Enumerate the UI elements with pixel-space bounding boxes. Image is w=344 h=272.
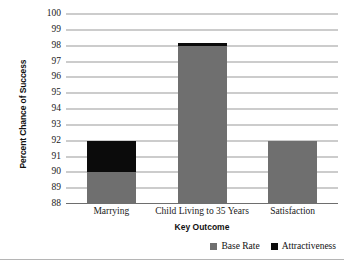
y-axis-tick-label: 100 <box>47 9 61 19</box>
y-axis-title: Percent Chance of Success <box>16 28 30 200</box>
y-axis-tick-label: 88 <box>52 199 62 209</box>
x-axis-tick-label: Marrying <box>93 206 129 216</box>
bar-slot <box>87 14 136 204</box>
bar-stack[interactable] <box>268 141 317 204</box>
bar-stack[interactable] <box>178 43 227 204</box>
y-axis-tick-label: 94 <box>52 104 62 114</box>
y-axis-tick-labels: 100999897969594939291908988 <box>38 14 64 204</box>
x-axis-tick-labels: MarryingChild Living to 35 YearsSatisfac… <box>66 206 338 222</box>
axis-baseline <box>66 203 338 204</box>
chart-legend: Base RateAttractiveness <box>210 241 336 251</box>
y-axis-tick-label: 97 <box>52 57 62 67</box>
legend-item[interactable]: Base Rate <box>210 241 259 251</box>
bottom-divider <box>0 259 344 260</box>
bar-slot <box>268 14 317 204</box>
x-axis-tick-label: Satisfaction <box>270 206 315 216</box>
bar-group <box>66 14 338 204</box>
y-axis-tick-label: 95 <box>52 88 62 98</box>
legend-item[interactable]: Attractiveness <box>271 241 336 251</box>
legend-label: Base Rate <box>221 241 259 251</box>
plot-area <box>66 14 338 204</box>
y-axis-tick-label: 92 <box>52 136 62 146</box>
legend-swatch-base-rate <box>210 243 217 250</box>
bar-segment-base-rate[interactable] <box>178 46 227 204</box>
x-axis-title: Key Outcome <box>66 222 338 232</box>
y-axis-tick-label: 90 <box>52 168 62 178</box>
legend-swatch-attractiveness <box>271 243 278 250</box>
y-axis-tick-label: 91 <box>52 152 62 162</box>
y-axis-tick-label: 96 <box>52 73 62 83</box>
x-axis-tick-label: Child Living to 35 Years <box>155 206 249 216</box>
chart-figure: Percent Chance of Success 10099989796959… <box>0 0 344 272</box>
legend-label: Attractiveness <box>282 241 336 251</box>
bar-segment-attractiveness[interactable] <box>87 141 136 173</box>
y-axis-tick-label: 93 <box>52 120 62 130</box>
y-axis-tick-label: 98 <box>52 41 62 51</box>
y-axis-tick-label: 89 <box>52 183 62 193</box>
bar-slot <box>178 14 227 204</box>
bar-stack[interactable] <box>87 141 136 204</box>
bar-segment-base-rate[interactable] <box>268 141 317 204</box>
bar-segment-base-rate[interactable] <box>87 172 136 204</box>
y-axis-tick-label: 99 <box>52 25 62 35</box>
